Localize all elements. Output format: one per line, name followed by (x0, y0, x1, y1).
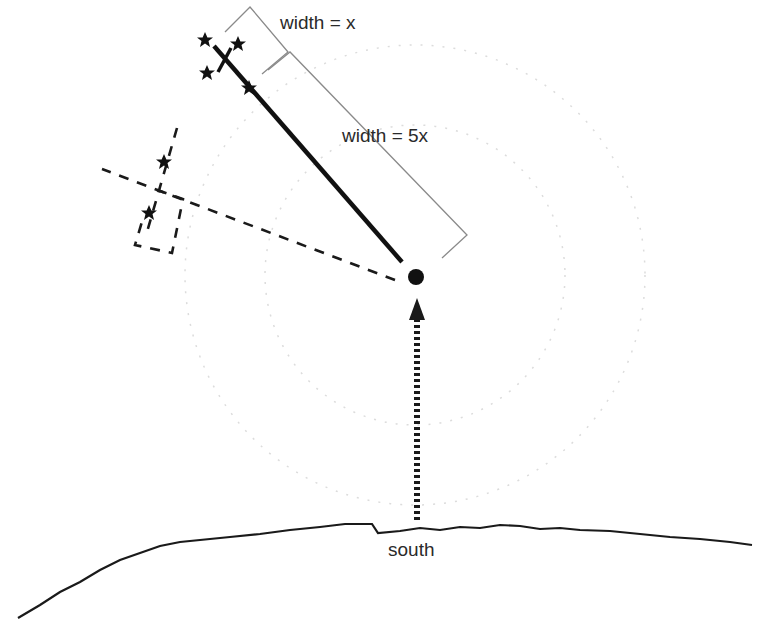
label-width-5x: width = 5x (342, 125, 428, 147)
label-south: south (388, 539, 434, 561)
pointer-line-solid (214, 46, 402, 262)
pole-point (408, 269, 424, 285)
south-arrow (409, 298, 425, 520)
diagram-canvas: width = x width = 5x south (0, 0, 765, 637)
diagram-graphic (0, 0, 765, 637)
label-width-x: width = x (280, 12, 356, 34)
horizon-line (18, 524, 752, 618)
